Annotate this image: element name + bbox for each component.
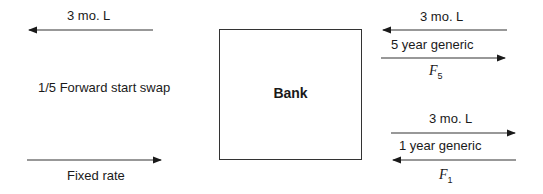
f1-main: F [439, 167, 448, 182]
f5-label: F5 [429, 63, 443, 84]
bank-label: Bank [220, 85, 361, 101]
f1-label: F1 [439, 167, 453, 188]
right-lower-3moL-label: 3 mo. L [429, 111, 472, 126]
f1-sub: 1 [448, 175, 453, 185]
left-bottom-flow-label: Fixed rate [67, 168, 125, 183]
five-year-generic-label: 5 year generic [391, 37, 473, 52]
left-top-flow-label: 3 mo. L [67, 8, 110, 23]
right-upper-3moL-label: 3 mo. L [420, 9, 463, 24]
f5-main: F [429, 63, 438, 78]
forward-start-swap-title: 1/5 Forward start swap [38, 80, 170, 95]
f5-sub: 5 [438, 71, 443, 81]
bank-box: Bank [219, 29, 362, 160]
one-year-generic-label: 1 year generic [399, 138, 481, 153]
